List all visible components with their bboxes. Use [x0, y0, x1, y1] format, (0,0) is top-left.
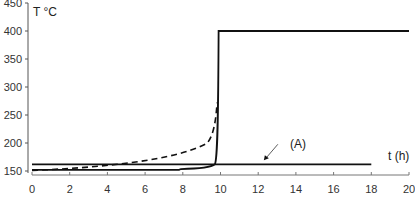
x-tick-label: 10: [214, 183, 226, 195]
x-tick-label: 4: [104, 183, 110, 195]
x-tick-label: 14: [290, 183, 302, 195]
y-tick-label: 350: [4, 53, 22, 65]
y-axis: 150200250300350400450: [4, 0, 28, 177]
y-tick-label: 150: [4, 165, 22, 177]
y-tick-label: 300: [4, 81, 22, 93]
annotation-label-a: (A): [290, 137, 306, 151]
line-chart: 150200250300350400450 02468101214161820 …: [0, 0, 415, 202]
y-tick-label: 250: [4, 109, 22, 121]
series-group: [32, 31, 409, 170]
series-solid-runaway: [32, 31, 409, 170]
x-tick-label: 8: [180, 183, 186, 195]
series-dashed: [32, 103, 217, 171]
x-tick-label: 6: [142, 183, 148, 195]
annotation-arrow-line: [266, 144, 278, 158]
x-tick-label: 16: [327, 183, 339, 195]
x-tick-label: 20: [403, 183, 415, 195]
x-axis: 02468101214161820: [29, 172, 415, 195]
y-tick-label: 200: [4, 137, 22, 149]
x-axis-title: t (h): [388, 149, 409, 163]
x-tick-label: 12: [252, 183, 264, 195]
x-tick-label: 0: [29, 183, 35, 195]
annotations: [264, 144, 278, 160]
x-tick-label: 2: [67, 183, 73, 195]
x-tick-label: 18: [365, 183, 377, 195]
y-tick-label: 400: [4, 25, 22, 37]
y-axis-title: T °C: [33, 5, 57, 19]
y-tick-label: 450: [4, 0, 22, 9]
